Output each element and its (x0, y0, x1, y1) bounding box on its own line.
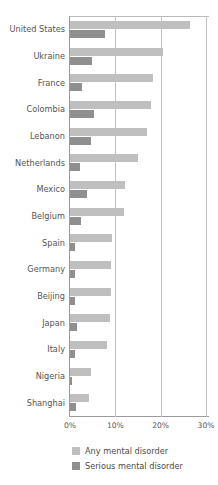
category-label: Belgium (0, 211, 65, 221)
gridline-30% (206, 16, 207, 417)
bar-any (70, 208, 124, 216)
category-label: Lebanon (0, 131, 65, 141)
bar-group (70, 43, 206, 70)
bar-any (70, 74, 153, 82)
bar-serious (70, 110, 94, 118)
chart-legend: Any mental disorderSerious mental disord… (72, 444, 218, 474)
legend-swatch-icon (72, 447, 80, 455)
bar-any (70, 154, 138, 162)
category-label: Mexico (0, 184, 65, 194)
category-label: Shanghai (0, 398, 65, 408)
bar-any (70, 21, 190, 29)
bar-any (70, 341, 107, 349)
bar-serious (70, 243, 75, 251)
bar-serious (70, 403, 76, 411)
category-label: Spain (0, 238, 65, 248)
category-label: Netherlands (0, 158, 65, 168)
bar-group (70, 283, 206, 310)
x-tick-label: 20% (146, 421, 176, 430)
legend-label: Serious mental disorder (85, 461, 183, 471)
legend-swatch-icon (72, 462, 80, 470)
bar-group (70, 309, 206, 336)
y-axis-category-labels: United StatesUkraineFranceColombiaLebano… (0, 16, 65, 416)
category-label: Colombia (0, 104, 65, 114)
bar-serious (70, 350, 75, 358)
bar-group (70, 176, 206, 203)
bar-group (70, 229, 206, 256)
bar-serious (70, 377, 72, 385)
bar-group (70, 203, 206, 230)
bar-serious (70, 30, 105, 38)
bar-serious (70, 83, 82, 91)
bar-serious (70, 137, 91, 145)
bar-any (70, 394, 89, 402)
bars-container (70, 16, 206, 416)
bar-chart: United StatesUkraineFranceColombiaLebano… (0, 0, 218, 485)
legend-item: Any mental disorder (72, 444, 218, 458)
category-label: France (0, 78, 65, 88)
bar-serious (70, 297, 75, 305)
bar-group (70, 389, 206, 416)
bar-serious (70, 190, 87, 198)
bar-any (70, 181, 125, 189)
bar-any (70, 314, 110, 322)
bar-group (70, 16, 206, 43)
bar-any (70, 368, 91, 376)
x-tick-label: 0% (55, 421, 85, 430)
bar-any (70, 101, 151, 109)
bar-any (70, 128, 147, 136)
bar-serious (70, 323, 77, 331)
bar-group (70, 149, 206, 176)
category-label: Germany (0, 264, 65, 274)
bar-serious (70, 57, 92, 65)
x-axis-line (69, 416, 209, 417)
legend-label: Any mental disorder (85, 446, 168, 456)
bar-group (70, 256, 206, 283)
bar-serious (70, 270, 75, 278)
bar-any (70, 261, 111, 269)
category-label: Japan (0, 318, 65, 328)
bar-serious (70, 163, 80, 171)
bar-group (70, 69, 206, 96)
bar-group (70, 336, 206, 363)
bar-any (70, 234, 112, 242)
x-tick-label: 10% (100, 421, 130, 430)
bar-serious (70, 217, 81, 225)
category-label: United States (0, 24, 65, 34)
bar-group (70, 363, 206, 390)
legend-item: Serious mental disorder (72, 459, 218, 473)
x-tick-label: 30% (191, 421, 218, 430)
bar-group (70, 96, 206, 123)
category-label: Nigeria (0, 371, 65, 381)
bar-any (70, 288, 111, 296)
category-label: Ukraine (0, 51, 65, 61)
bar-any (70, 48, 163, 56)
category-label: Beijing (0, 291, 65, 301)
category-label: Italy (0, 344, 65, 354)
bar-group (70, 123, 206, 150)
